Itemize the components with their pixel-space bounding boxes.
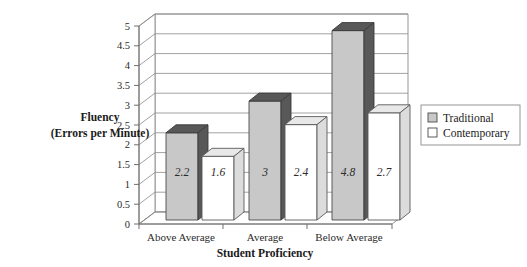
y-axis: [134, 26, 139, 224]
y-tick-label: 4.5: [117, 40, 130, 51]
legend-swatch-contemporary: [428, 128, 437, 137]
y-tick-label: 3.5: [117, 80, 130, 91]
bar-value-label: 1.6: [211, 166, 226, 178]
x-tick-labels: Above Average Average Below Average: [147, 231, 383, 243]
y-axis-title-line1: Fluency: [81, 111, 120, 124]
y-axis-title-line2: (Errors per Minute): [51, 127, 150, 140]
legend-label-traditional: Traditional: [443, 112, 494, 124]
y-tick-label: 1.5: [117, 159, 130, 170]
legend: Traditional Contemporary: [421, 105, 520, 145]
y-tick-label: 4: [125, 60, 131, 71]
y-tick-label: 2: [125, 139, 130, 150]
bar-value-label: 4.8: [341, 166, 356, 178]
x-tick-label: Above Average: [147, 231, 215, 243]
y-tick-label: 3: [125, 100, 130, 111]
legend-swatch-traditional: [428, 113, 437, 122]
y-tick-label: 5: [125, 21, 130, 32]
bar-chart: 5 4.5 4 3.5 3 2.5 2 1.5 1 0.5 0: [0, 0, 527, 267]
bar-value-label: 2.7: [377, 166, 393, 178]
bar-value-label: 2.4: [294, 166, 309, 178]
bar-value-label: 3: [261, 166, 268, 178]
y-tick-labels: 5 4.5 4 3.5 3 2.5 2 1.5 1 0.5 0: [117, 21, 131, 230]
bar-contemporary-below-average: [368, 105, 410, 220]
bar-value-label: 2.2: [175, 166, 190, 178]
x-tick-label: Average: [247, 231, 284, 243]
y-tick-label: 1: [125, 179, 130, 190]
chart-canvas: 5 4.5 4 3.5 3 2.5 2 1.5 1 0.5 0: [0, 0, 527, 267]
bar-contemporary-above-average: [202, 148, 244, 220]
legend-label-contemporary: Contemporary: [443, 127, 510, 140]
x-axis-title: Student Proficiency: [217, 247, 314, 260]
x-axis: [139, 224, 392, 229]
x-tick-label: Below Average: [315, 231, 382, 243]
y-tick-label: 0.5: [117, 199, 130, 210]
y-tick-label: 0: [125, 219, 130, 230]
